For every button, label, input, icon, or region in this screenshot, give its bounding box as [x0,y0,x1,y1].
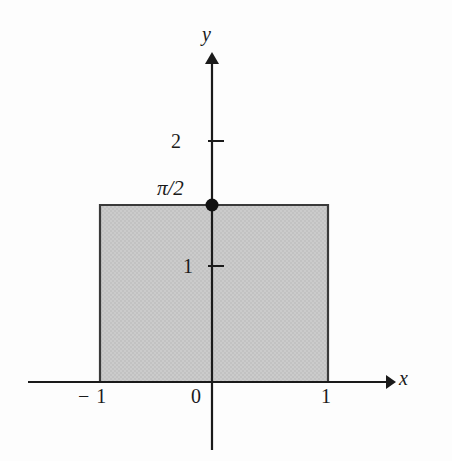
y-axis-label: y [202,24,211,44]
x-tick-label-1: 1 [321,386,331,406]
plot-canvas [0,0,452,461]
origin-label: 0 [191,386,201,406]
shaded-region-rectangle [100,205,328,382]
x-tick-label-negative-1: − 1 [78,386,107,406]
y-axis-arrow-icon [205,52,219,64]
y-tick-label-pi-over-2: π/2 [157,178,184,199]
x-axis-arrow-icon [386,375,396,389]
x-axis-label: x [399,368,408,388]
pi-over-two-point-marker [206,199,219,212]
math-figure-shaded-rectangle: y x 2 π/2 1 − 1 0 1 [0,0,452,461]
y-tick-label-2: 2 [171,131,181,151]
y-tick-label-1: 1 [183,256,193,276]
